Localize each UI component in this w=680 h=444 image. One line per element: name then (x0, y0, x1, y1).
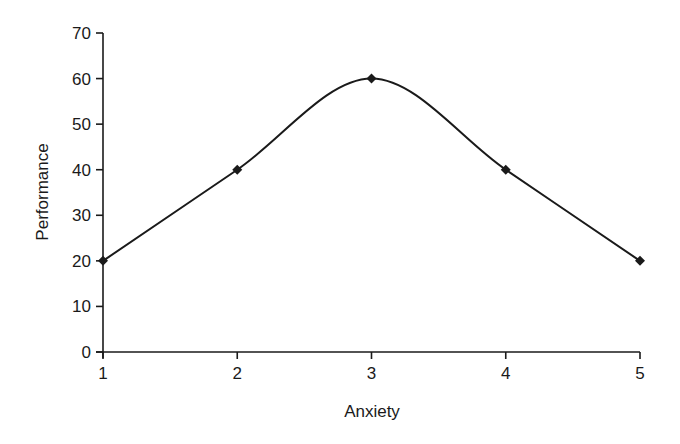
y-tick-label: 70 (72, 24, 91, 43)
y-axis-title: Performance (33, 143, 52, 240)
x-tick-label: 3 (367, 364, 376, 383)
diamond-marker-icon (367, 74, 377, 84)
x-tick-label: 2 (233, 364, 242, 383)
series-line (103, 79, 640, 261)
x-tick-label: 1 (98, 364, 107, 383)
data-series (98, 74, 645, 266)
chart: 010203040506070 12345 Anxiety Performanc… (0, 0, 680, 444)
x-axis: 12345 (96, 352, 645, 383)
x-axis-title: Anxiety (344, 402, 400, 421)
y-tick-label: 60 (72, 70, 91, 89)
y-tick-label: 10 (72, 297, 91, 316)
x-tick-label: 5 (635, 364, 644, 383)
y-tick-label: 30 (72, 206, 91, 225)
y-tick-label: 0 (82, 343, 91, 362)
y-tick-label: 50 (72, 115, 91, 134)
y-tick-label: 20 (72, 252, 91, 271)
x-tick-label: 4 (501, 364, 510, 383)
y-axis: 010203040506070 (72, 24, 103, 362)
y-tick-label: 40 (72, 161, 91, 180)
